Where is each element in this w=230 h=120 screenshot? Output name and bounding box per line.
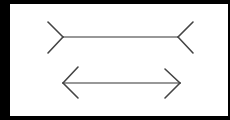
- muller-lyer-figure: [0, 0, 230, 120]
- arrowheads-line: [63, 67, 180, 98]
- fins-out-line: [48, 22, 193, 53]
